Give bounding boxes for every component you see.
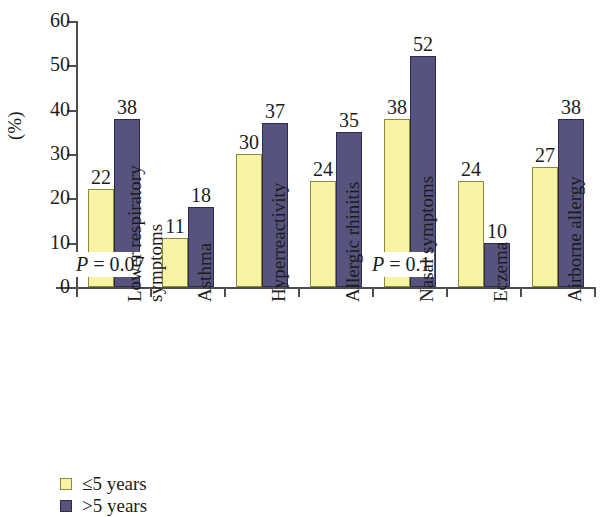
category-label-line: Lower respiratory — [124, 165, 145, 302]
y-tick-label: 50 — [50, 53, 70, 75]
bar: 24 — [458, 181, 484, 287]
bar-value-label: 30 — [239, 132, 259, 153]
x-tick-mark — [520, 287, 522, 297]
bar-value-label: 10 — [487, 221, 507, 242]
legend-item-low: ≤5 years — [60, 473, 147, 495]
x-tick-mark — [224, 287, 226, 297]
y-tick-label: 60 — [50, 9, 70, 31]
bar-value-label: 38 — [117, 97, 137, 118]
bar-value-label: 24 — [461, 159, 481, 180]
category-label-line: Allergic rhinitis — [342, 182, 363, 303]
y-axis-title: (%) — [4, 112, 26, 140]
bar-value-label: 22 — [91, 167, 111, 188]
bar: 24 — [310, 181, 336, 287]
bar-value-label: 27 — [535, 145, 555, 166]
legend-swatch-icon-high — [60, 500, 72, 512]
category-label: Lower respiratorysymptoms — [124, 165, 166, 302]
category-label-line: Eczema — [490, 242, 511, 302]
category-label-line: Hyperreactivity — [268, 183, 289, 302]
bar-value-label: 35 — [339, 110, 359, 131]
y-tick-label: 40 — [50, 98, 70, 120]
legend-label-low: ≤5 years — [82, 474, 147, 494]
category-label-line: Airborne allergy — [564, 176, 585, 302]
x-tick-mark — [372, 287, 374, 297]
y-tick-label: 0 — [60, 275, 70, 297]
y-tick-label: 10 — [50, 231, 70, 253]
x-tick-mark — [76, 287, 78, 297]
legend-label-high: >5 years — [82, 496, 147, 516]
x-tick-mark — [594, 287, 596, 297]
category-label-line: Asthma — [194, 243, 215, 302]
p-symbol: P — [76, 253, 88, 275]
category-label: Nasal symptoms — [417, 176, 437, 302]
bar: 30 — [236, 154, 262, 287]
bar-value-label: 37 — [265, 101, 285, 122]
bar-value-label: 18 — [191, 185, 211, 206]
bar-value-label: 24 — [313, 159, 333, 180]
bar-value-label: 11 — [165, 216, 184, 237]
y-tick-label: 30 — [50, 142, 70, 164]
x-tick-mark — [446, 287, 448, 297]
p-symbol: P — [372, 253, 384, 275]
category-label: Hyperreactivity — [269, 183, 289, 302]
legend-item-high: >5 years — [60, 495, 147, 517]
bar-value-label: 38 — [561, 97, 581, 118]
y-tick-label: 20 — [50, 186, 70, 208]
category-label-line: symptoms — [145, 165, 166, 302]
chart-legend: ≤5 years >5 years — [60, 473, 147, 517]
x-tick-mark — [298, 287, 300, 297]
category-label-line: Nasal symptoms — [416, 176, 437, 302]
category-label: Eczema — [491, 242, 511, 302]
bar-value-label: 38 — [387, 97, 407, 118]
category-label: Asthma — [195, 243, 215, 302]
category-label: Airborne allergy — [565, 176, 585, 302]
bar: 27 — [532, 167, 558, 287]
legend-swatch-icon-low — [60, 478, 72, 490]
category-label: Allergic rhinitis — [343, 182, 363, 303]
bar-value-label: 52 — [413, 34, 433, 55]
